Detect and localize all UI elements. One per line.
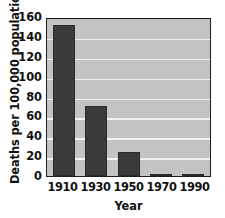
bar (118, 152, 140, 176)
x-axis-tick-labels: 19101930195019701990 (46, 180, 211, 196)
bar-slot (145, 19, 177, 176)
x-tick-label: 1910 (46, 180, 79, 194)
bar (53, 25, 75, 176)
chart-title: from Tuberculosis (0, 0, 225, 3)
x-tick-label: 1930 (79, 180, 112, 194)
bar-series (47, 19, 210, 176)
bar-slot (177, 19, 209, 176)
y-tick-label: 60 (14, 112, 42, 123)
y-axis-tick-labels: 020406080100120140160 (14, 18, 42, 177)
y-tick-label: 160 (14, 12, 42, 23)
y-tick-label: 120 (14, 52, 42, 63)
bar (85, 106, 107, 176)
x-tick-label: 1950 (112, 180, 145, 194)
y-tick-label: 100 (14, 72, 42, 83)
x-tick-label: 1970 (145, 180, 178, 194)
bar-slot (112, 19, 144, 176)
y-tick-label: 0 (14, 171, 42, 182)
y-tick-label: 40 (14, 132, 42, 143)
x-tick-label: 1990 (178, 180, 211, 194)
plot-area (46, 18, 211, 177)
y-tick-label: 20 (14, 151, 42, 162)
x-axis-label: Year (46, 199, 211, 213)
y-tick-label: 80 (14, 92, 42, 103)
bar (182, 174, 204, 176)
bar-chart-figure: from Tuberculosis Deaths per 100,000 pop… (0, 0, 225, 218)
y-tick-label: 140 (14, 32, 42, 43)
bar-slot (80, 19, 112, 176)
bar (150, 174, 172, 176)
bar-slot (48, 19, 80, 176)
